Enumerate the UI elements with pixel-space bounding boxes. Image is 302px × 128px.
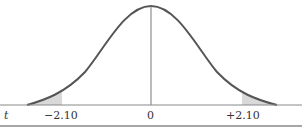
tick-label-negative: −2.10 [44, 110, 78, 122]
tick-label-positive: +2.10 [226, 110, 260, 122]
tick-label-zero: 0 [147, 110, 154, 122]
axis-variable-label: t [4, 110, 8, 122]
t-distribution-figure: t −2.10 0 +2.10 [0, 0, 302, 128]
density-curve [27, 6, 277, 105]
